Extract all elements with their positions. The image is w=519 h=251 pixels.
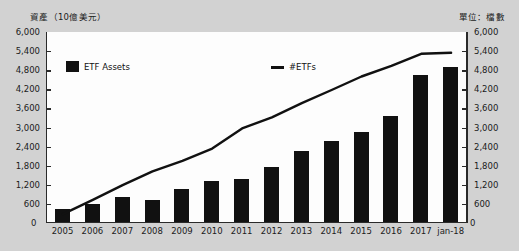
- y-tick-mark-right: [462, 147, 467, 148]
- y-axis-left-labels: 6001,2001,8002,4003,0003,6004,2004,8005,…: [4, 32, 44, 223]
- y-tick-mark-right: [462, 70, 467, 71]
- y-tick-left: 3,000: [16, 124, 40, 133]
- x-tick-2009: 2009: [167, 226, 197, 242]
- y-tick-right: 3,600: [474, 104, 498, 113]
- y-axis-right-zero-label: 0: [470, 218, 475, 228]
- y-tick-mark-right: [462, 89, 467, 90]
- legend-swatch-line-icon: [271, 66, 284, 69]
- y-tick-left: 3,600: [16, 104, 40, 113]
- legend-item-etf-assets: ETF Assets: [66, 61, 130, 72]
- x-tick-2014: 2014: [316, 226, 346, 242]
- x-tick-2016: 2016: [376, 226, 406, 242]
- y-tick-left: 1,800: [16, 162, 40, 171]
- y-tick-mark: [46, 128, 51, 129]
- y-tick-right: 600: [474, 200, 490, 209]
- y-axis-right-labels: 6001,2001,8002,4003,0003,6004,2004,8005,…: [470, 32, 514, 223]
- y-tick-left: 1,200: [16, 181, 40, 190]
- y-tick-left: 600: [24, 200, 40, 209]
- legend-swatch-box-icon: [66, 61, 79, 72]
- y-tick-right: 2,400: [474, 143, 498, 152]
- y-tick-left: 2,400: [16, 143, 40, 152]
- legend-label-num-etfs: #ETFs: [289, 62, 316, 72]
- y-tick-right: 4,800: [474, 66, 498, 75]
- legend-label-etf-assets: ETF Assets: [84, 62, 130, 72]
- y-tick-right: 1,200: [474, 181, 498, 190]
- x-tick-2005: 2005: [48, 226, 78, 242]
- y-tick-left: 6,000: [16, 28, 40, 37]
- x-tick-2015: 2015: [346, 226, 376, 242]
- x-tick-2011: 2011: [227, 226, 257, 242]
- y-tick-right: 3,000: [474, 124, 498, 133]
- x-tick-2007: 2007: [107, 226, 137, 242]
- y-tick-right: 4,200: [474, 85, 498, 94]
- y-tick-mark: [46, 166, 51, 167]
- y-tick-mark: [46, 89, 51, 90]
- y-tick-mark: [46, 147, 51, 148]
- y-tick-mark: [46, 51, 51, 52]
- y-tick-mark-right: [462, 166, 467, 167]
- y-tick-left: 4,200: [16, 85, 40, 94]
- x-tick-jan-18: jan-18: [436, 226, 466, 242]
- y-tick-mark: [46, 108, 51, 109]
- x-axis-labels: 2005200620072008200920102011201220132014…: [48, 226, 466, 242]
- y-tick-mark-right: [462, 185, 467, 186]
- x-tick-2006: 2006: [77, 226, 107, 242]
- right-axis-unit-label: 單位：檔數: [459, 10, 506, 22]
- y-tick-mark-right: [462, 128, 467, 129]
- y-tick-right: 5,400: [474, 47, 498, 56]
- x-tick-2013: 2013: [286, 226, 316, 242]
- chart-legend: ETF Assets #ETFs: [46, 58, 467, 80]
- x-tick-2012: 2012: [257, 226, 287, 242]
- x-tick-2008: 2008: [137, 226, 167, 242]
- y-tick-right: 1,800: [474, 162, 498, 171]
- y-tick-left: 4,800: [16, 66, 40, 75]
- y-tick-mark: [46, 185, 51, 186]
- y-tick-mark-right: [462, 204, 467, 205]
- y-tick-right: 6,000: [474, 28, 498, 37]
- y-tick-left: 5,400: [16, 47, 40, 56]
- y-tick-mark-right: [462, 108, 467, 109]
- y-tick-mark-right: [462, 51, 467, 52]
- left-axis-unit-label: 資產（10億美元）: [30, 10, 107, 22]
- x-tick-2017: 2017: [406, 226, 436, 242]
- y-tick-mark: [46, 204, 51, 205]
- legend-item-num-etfs: #ETFs: [271, 62, 316, 72]
- y-tick-mark: [46, 70, 51, 71]
- y-axis-left-zero-label: 0: [31, 218, 36, 228]
- chart-container: 資產（10億美元） 單位：檔數 6001,2001,8002,4003,0003…: [0, 0, 519, 251]
- x-tick-2010: 2010: [197, 226, 227, 242]
